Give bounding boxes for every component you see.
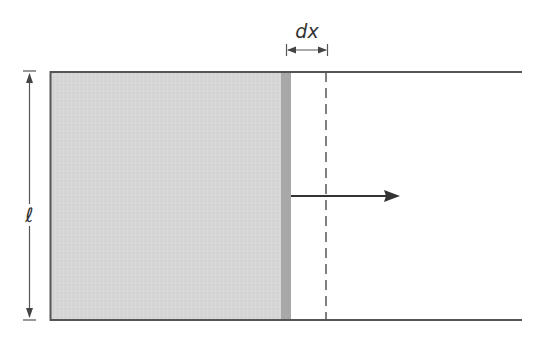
sliding-bar (281, 72, 291, 320)
arrow-up-icon (26, 73, 33, 83)
arrow-right-icon (318, 47, 327, 54)
arrow-left-icon (287, 47, 296, 54)
velocity-arrow-icon (384, 190, 400, 202)
dx-label: dx (295, 20, 319, 42)
arrow-down-icon (26, 308, 33, 318)
length-label: ℓ (24, 203, 33, 227)
rail-diagram: ℓ dx (0, 0, 550, 342)
shaded-area (50, 72, 282, 320)
